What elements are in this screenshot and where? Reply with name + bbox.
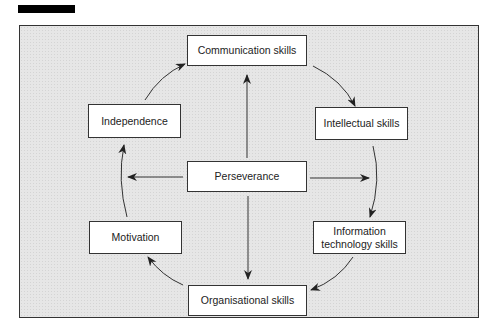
node-information-technology-skills: Information technology skills: [313, 221, 406, 254]
node-organisational-skills: Organisational skills: [188, 285, 307, 316]
node-communication-skills: Communication skills: [187, 35, 307, 66]
node-independence: Independence: [88, 104, 181, 138]
cycle-arrow-independence-communication: [145, 64, 185, 100]
cycle-arrow-communication-intellectual: [313, 66, 355, 106]
node-label: Organisational skills: [201, 294, 294, 307]
cycle-arrow-information-organisational: [311, 257, 353, 290]
node-label: Independence: [101, 115, 168, 128]
node-label: Intellectual skills: [324, 117, 400, 130]
node-label: Information technology skills: [314, 225, 405, 251]
cycle-arrow-intellectual-information: [370, 146, 377, 217]
node-intellectual-skills: Intellectual skills: [315, 107, 408, 140]
node-motivation: Motivation: [89, 221, 182, 254]
node-perseverance-hub: Perseverance: [187, 161, 307, 192]
node-label: Motivation: [112, 231, 160, 244]
cycle-arrow-organisational-motivation: [148, 257, 183, 285]
node-label: Communication skills: [198, 44, 297, 57]
cycle-arrow-motivation-independence: [121, 145, 127, 217]
node-label: Perseverance: [215, 170, 280, 183]
